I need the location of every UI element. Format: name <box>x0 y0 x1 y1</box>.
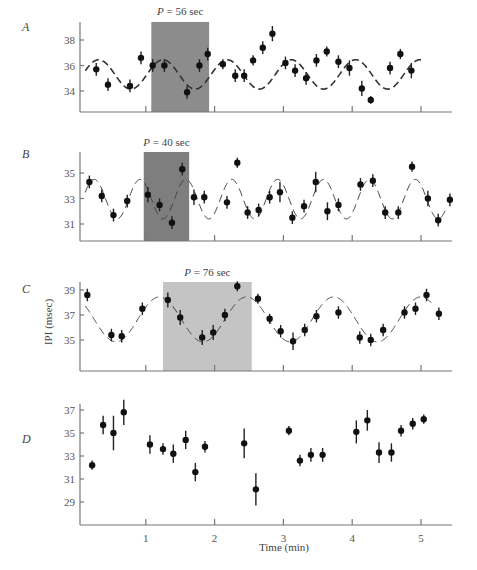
marker <box>138 55 144 61</box>
marker <box>357 334 363 340</box>
panels: P = 56 sec343638AP = 40 sec313335BP = 76… <box>21 5 453 544</box>
sinusoid-fit <box>85 60 424 89</box>
data-point <box>119 330 125 343</box>
panel-label: A <box>21 20 30 34</box>
data-point <box>359 81 365 96</box>
marker <box>308 452 314 458</box>
data-point <box>436 308 442 321</box>
marker <box>202 444 208 450</box>
marker <box>423 292 429 298</box>
data-point <box>397 49 403 59</box>
data-point <box>368 334 374 347</box>
data-point <box>425 191 431 206</box>
marker <box>260 44 266 50</box>
marker <box>234 160 240 166</box>
data-point <box>266 191 272 204</box>
marker <box>199 334 205 340</box>
data-point <box>84 289 90 302</box>
marker <box>408 67 414 73</box>
marker <box>382 209 388 215</box>
data-point <box>319 448 325 462</box>
data-point <box>255 204 261 217</box>
marker <box>346 65 352 71</box>
marker <box>160 446 166 452</box>
marker <box>397 51 403 57</box>
sinusoid-fit <box>85 297 433 342</box>
marker <box>335 58 341 64</box>
data-point <box>302 324 308 337</box>
y-tick-label: 34 <box>64 85 76 97</box>
data-point <box>376 442 382 463</box>
marker <box>435 217 441 223</box>
period-label: P = 56 sec <box>156 5 203 17</box>
data-point <box>121 400 127 425</box>
marker <box>192 469 198 475</box>
marker <box>370 177 376 183</box>
data-point <box>353 420 359 443</box>
marker <box>368 97 374 103</box>
marker <box>353 429 359 435</box>
y-tick-label: 38 <box>64 34 76 46</box>
marker <box>84 292 90 298</box>
marker <box>412 306 418 312</box>
x-tick-label: 2 <box>212 532 218 544</box>
data-point <box>255 294 261 304</box>
panel-b: P = 40 sec313335B <box>22 136 453 241</box>
marker <box>110 212 116 218</box>
data-point <box>303 72 309 85</box>
marker <box>277 328 283 334</box>
marker <box>447 197 453 203</box>
data-point <box>99 190 105 203</box>
marker <box>266 316 272 322</box>
data-point <box>346 60 352 75</box>
marker <box>253 486 259 492</box>
y-tick-label: 33 <box>64 450 76 462</box>
x-axis-title: Time (min) <box>259 541 309 554</box>
marker <box>100 422 106 428</box>
marker <box>388 449 394 455</box>
data-point <box>183 431 189 449</box>
marker <box>169 220 175 226</box>
data-point <box>93 63 99 76</box>
marker <box>289 214 295 220</box>
marker <box>244 209 250 215</box>
data-point <box>110 209 116 222</box>
data-point <box>138 51 144 64</box>
marker <box>205 51 211 57</box>
data-point <box>147 435 153 453</box>
marker <box>184 89 190 95</box>
marker <box>99 193 105 199</box>
panel-label: D <box>21 432 31 446</box>
data-point <box>335 306 341 319</box>
marker <box>421 416 427 422</box>
marker <box>191 194 197 200</box>
data-point <box>127 80 133 93</box>
data-point <box>192 463 198 481</box>
data-point <box>313 54 319 67</box>
marker <box>409 163 415 169</box>
y-tick-label: 35 <box>64 334 76 346</box>
marker <box>177 314 183 320</box>
marker <box>359 85 365 91</box>
data-point <box>100 416 106 434</box>
data-point <box>110 416 116 451</box>
data-point <box>364 410 370 431</box>
data-point <box>234 158 240 168</box>
marker <box>324 48 330 54</box>
marker <box>313 179 319 185</box>
data-point <box>335 55 341 68</box>
data-point <box>241 428 247 458</box>
data-point <box>290 333 296 351</box>
data-point <box>202 441 208 453</box>
figure: P = 56 sec343638AP = 40 sec313335BP = 76… <box>0 0 477 570</box>
marker <box>222 312 228 318</box>
data-point <box>335 199 341 212</box>
x-tick-label: 4 <box>349 532 355 544</box>
marker <box>119 333 125 339</box>
marker <box>241 73 247 79</box>
marker <box>292 67 298 73</box>
panel-d: 293133353712345D <box>21 400 452 544</box>
y-tick-label: 33 <box>64 193 76 205</box>
data-point <box>277 182 283 202</box>
data-point <box>324 202 330 220</box>
